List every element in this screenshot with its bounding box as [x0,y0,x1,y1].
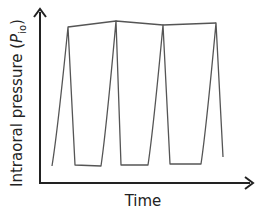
y-label-subscript: io [17,25,28,34]
x-axis-label: Time [125,192,162,210]
y-label-text: Intraoral pressure ( [8,43,26,187]
y-label-suffix: ) [8,19,26,25]
peak-envelope-line [68,21,216,27]
pressure-curve [52,21,223,166]
y-axis-label: Intraoral pressure (Pio) [8,19,28,187]
y-label-symbol: P [8,34,26,43]
chart-canvas [0,0,263,215]
